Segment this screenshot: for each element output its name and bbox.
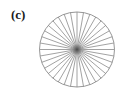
wheel-hub — [71, 44, 83, 56]
spoke-wheel-diagram — [0, 0, 119, 91]
